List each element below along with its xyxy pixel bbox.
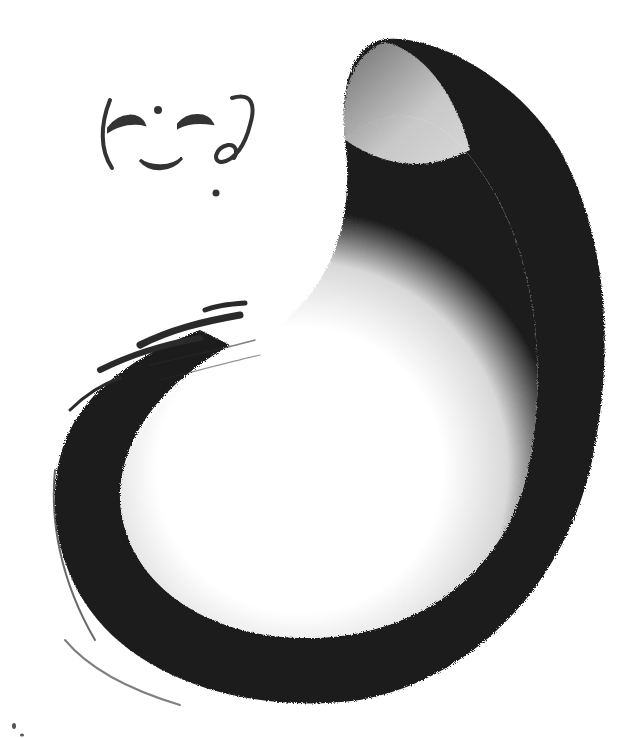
question-dot — [213, 190, 220, 197]
face-glyph — [103, 97, 253, 197]
spiral-brushstroke — [55, 39, 605, 704]
left-eye — [108, 116, 145, 132]
forehead-dot — [154, 106, 162, 114]
mouth — [140, 158, 182, 169]
ink-brush-artwork — [0, 0, 643, 738]
ink-speck — [12, 723, 24, 737]
left-bracket — [103, 100, 112, 168]
right-eye — [178, 115, 213, 128]
question-hook — [216, 97, 253, 162]
